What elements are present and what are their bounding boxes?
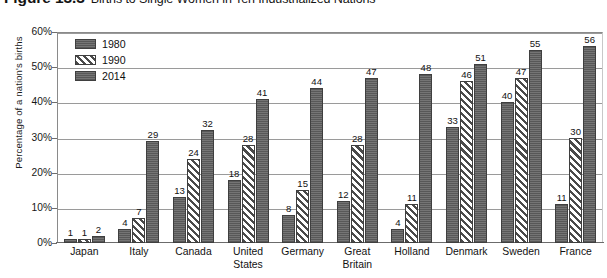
bar-value-label: 29 [148,129,159,140]
y-axis-tick-label: 20% [6,167,52,178]
chart-figure: Figure 13.3Births to Single Women in Ten… [0,0,607,278]
x-axis-category-label: Sweden [494,246,549,259]
bar-value-label: 18 [229,168,240,179]
bar: 48 [419,74,432,243]
x-axis-category-labels: JapanItalyCanadaUnited StatesGermanyGrea… [57,246,603,278]
chart-legend: 1980 1990 2014 [75,36,145,84]
bar: 30 [569,138,582,244]
bar: 56 [583,46,596,243]
bar: 40 [501,102,514,243]
bar: 11 [405,204,418,243]
bar: 24 [187,159,200,243]
bar-group: 404755 [494,32,549,243]
bar-value-label: 4 [122,217,127,228]
bar-value-label: 44 [311,76,322,87]
x-axis-category-label: France [548,246,603,259]
bar-value-label: 11 [557,192,567,203]
bar-value-label: 55 [530,38,541,49]
y-axis-tick-label: 60% [6,26,52,37]
bar: 44 [310,88,323,243]
bar: 1 [64,239,77,243]
x-axis-category-label: Japan [57,246,112,259]
bar-value-label: 7 [136,206,141,217]
y-axis-tick-label: 10% [6,202,52,213]
figure-title: Figure 13.3Births to Single Women in Ten… [4,0,376,7]
bar-group: 81544 [275,32,330,243]
legend-swatch-1990-icon [75,55,96,65]
bar: 32 [201,130,214,243]
bar-value-label: 40 [502,90,513,101]
bar-value-label: 13 [174,185,185,196]
bar: 11 [555,204,568,243]
y-axis-tick-label: 0% [6,237,52,248]
bar-value-label: 47 [366,66,377,77]
bar-value-label: 12 [338,189,349,200]
bar-group: 132432 [166,32,221,243]
bar-value-label: 2 [96,224,101,235]
legend-item: 2014 [75,68,145,83]
x-axis-category-label: United States [221,246,276,271]
bar-group: 334651 [439,32,494,243]
bar: 4 [118,229,131,243]
bar-value-label: 47 [516,66,527,77]
bar: 15 [296,190,309,243]
bar: 33 [446,127,459,243]
bar: 29 [146,141,159,243]
bar-value-label: 15 [297,178,308,189]
bar: 46 [460,81,473,243]
x-axis-category-label: Italy [112,246,167,259]
x-axis-category-label: Germany [275,246,330,259]
bar-value-label: 51 [475,52,486,63]
legend-label-2014: 2014 [102,70,126,82]
bar-value-label: 28 [243,133,254,144]
x-axis-category-label: Denmark [439,246,494,259]
bar: 12 [337,201,350,243]
bar: 55 [529,50,542,243]
bar: 28 [242,145,255,243]
bar: 47 [365,78,378,243]
bar-group: 113056 [548,32,603,243]
bar-value-label: 48 [421,62,432,73]
bar: 47 [515,78,528,243]
y-axis-tick-label: 50% [6,61,52,72]
bar-value-label: 11 [407,192,417,203]
y-axis-tick-label: 40% [6,96,52,107]
bar: 18 [228,180,241,243]
bar-value-label: 1 [82,227,87,238]
bar-value-label: 41 [257,87,268,98]
bar-value-label: 1 [68,227,73,238]
x-axis-category-label: Great Britain [330,246,385,271]
bar-group: 41148 [385,32,440,243]
bar-value-label: 33 [447,115,458,126]
legend-label-1980: 1980 [102,38,126,50]
bar: 8 [282,215,295,243]
x-axis-category-label: Canada [166,246,221,259]
legend-swatch-2014-icon [75,71,96,81]
bar-value-label: 28 [352,133,363,144]
bar-group: 122847 [330,32,385,243]
bar-value-label: 24 [188,147,199,158]
bar-value-label: 4 [395,217,400,228]
bar: 1 [78,239,91,243]
bar: 13 [173,197,186,243]
legend-label-1990: 1990 [102,54,126,66]
y-axis-tick-mark [52,243,57,244]
bar: 7 [132,218,145,243]
legend-item: 1980 [75,36,145,51]
legend-item: 1990 [75,52,145,67]
bar-group: 182841 [221,32,276,243]
legend-swatch-1980-icon [75,39,96,49]
bar: 51 [474,64,487,243]
bar-value-label: 46 [461,69,472,80]
bar-value-label: 32 [202,118,213,129]
bar: 41 [256,99,269,243]
y-axis-tick-labels: 60%50%40%30%20%10%0% [0,0,52,278]
bar: 2 [92,236,105,243]
y-axis-tick-label: 30% [6,132,52,143]
bar-value-label: 56 [584,34,595,45]
bar: 28 [351,145,364,243]
figure-caption: Births to Single Women in Ten Industrial… [91,0,376,6]
x-axis-category-label: Holland [385,246,440,259]
bar-value-label: 8 [286,203,291,214]
bar-value-label: 30 [570,126,581,137]
